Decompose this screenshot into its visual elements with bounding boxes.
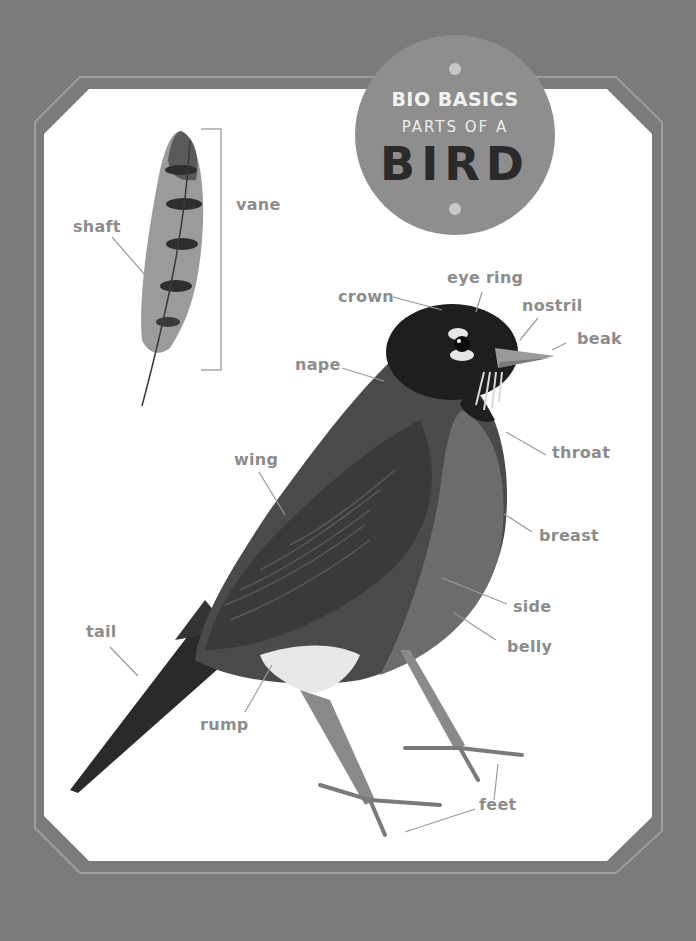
badge-subtitle: PARTS OF A (355, 118, 555, 136)
diagram-stage: BIO BASICS PARTS OF A BIRD shaft vane ey… (0, 0, 696, 941)
badge-dot-bottom (449, 203, 461, 215)
label-throat: throat (552, 445, 610, 461)
label-shaft: shaft (73, 219, 121, 235)
artwork (0, 0, 696, 941)
title-badge: BIO BASICS PARTS OF A BIRD (355, 35, 555, 235)
badge-dot-top (449, 63, 461, 75)
label-wing: wing (234, 452, 278, 468)
label-rump: rump (200, 717, 249, 733)
label-belly: belly (507, 639, 552, 655)
label-crown: crown (338, 289, 394, 305)
label-vane: vane (236, 197, 281, 213)
label-nape: nape (295, 357, 341, 373)
label-beak: beak (577, 331, 622, 347)
badge-series-title: BIO BASICS (355, 88, 555, 110)
badge-main-title: BIRD (355, 137, 555, 191)
label-eye-ring: eye ring (447, 270, 523, 286)
label-nostril: nostril (522, 298, 583, 314)
label-breast: breast (539, 528, 599, 544)
label-tail: tail (86, 624, 117, 640)
label-feet: feet (479, 797, 517, 813)
label-side: side (513, 599, 552, 615)
